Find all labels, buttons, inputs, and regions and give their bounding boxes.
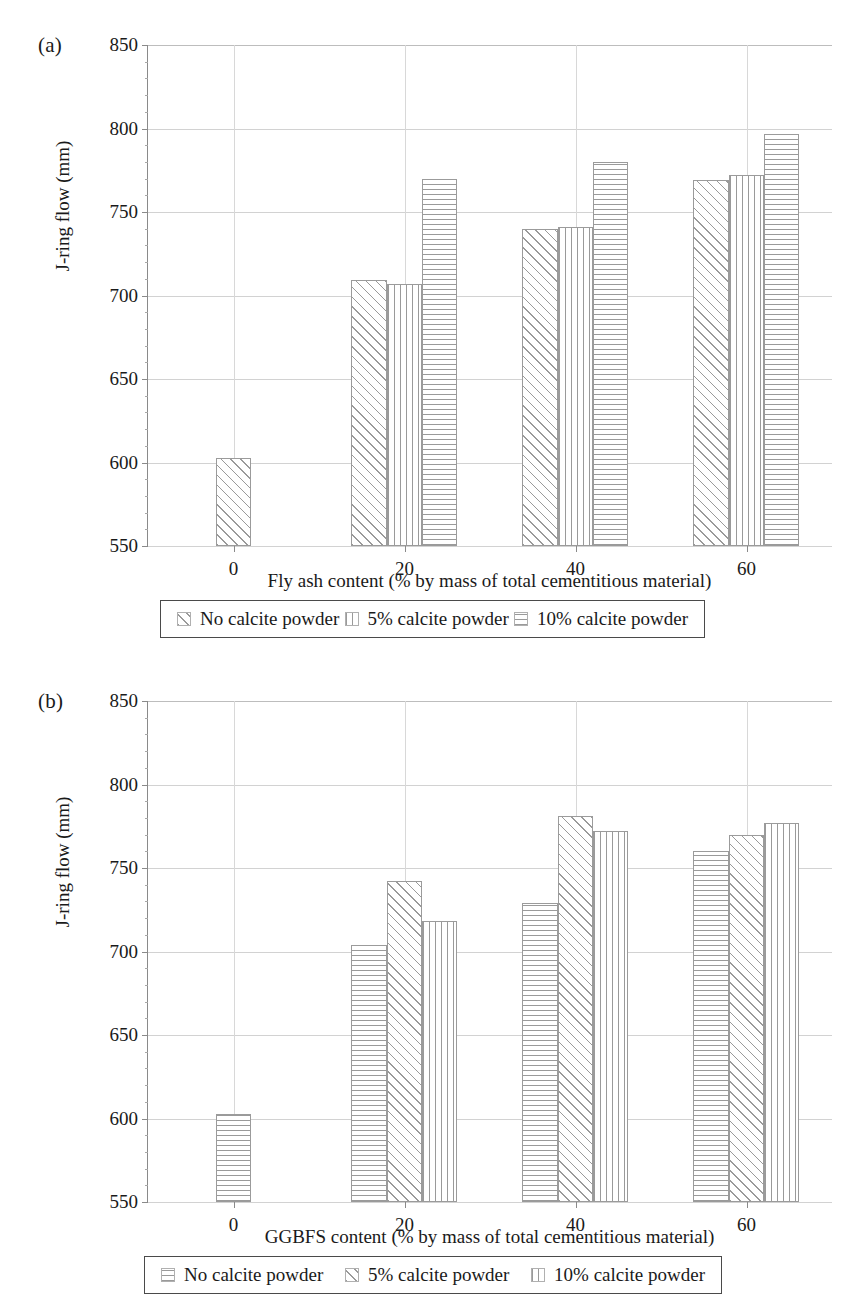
y-tick-label: 600 <box>110 452 139 474</box>
y-minor-tick <box>145 162 148 163</box>
chart-panel-a: (a) J-ring flow (mm) 5506006507007508008… <box>0 0 865 650</box>
bar-b-20-s2 <box>422 921 457 1202</box>
y-tick-label: 650 <box>110 368 139 390</box>
y-tick-mark <box>142 296 148 297</box>
y-minor-tick <box>145 78 148 79</box>
legend-item-a-1[interactable]: 5% calcite powder <box>345 608 509 630</box>
y-minor-tick <box>145 95 148 96</box>
x-tick-mark <box>405 1202 406 1208</box>
y-gridline <box>148 546 832 547</box>
legend-label: No calcite powder <box>200 608 339 630</box>
y-tick-mark <box>142 379 148 380</box>
y-gridline <box>148 701 832 702</box>
y-tick-mark <box>142 952 148 953</box>
y-minor-tick <box>145 396 148 397</box>
panel-label-a: (a) <box>38 33 62 58</box>
panel-label-b: (b) <box>38 689 63 714</box>
y-minor-tick <box>145 346 148 347</box>
y-minor-tick <box>145 112 148 113</box>
x-tick-mark <box>405 546 406 552</box>
legend-label: No calcite powder <box>184 1264 323 1286</box>
y-tick-mark <box>142 1202 148 1203</box>
y-minor-tick <box>145 818 148 819</box>
legend-swatch-vertical-icon <box>345 612 359 626</box>
y-gridline <box>148 1202 832 1203</box>
plot-area-b: 5506006507007508008500204060 <box>147 701 832 1203</box>
legend-item-a-2[interactable]: 10% calcite powder <box>514 608 688 630</box>
y-minor-tick <box>145 1152 148 1153</box>
x-tick-mark <box>576 546 577 552</box>
y-tick-label: 550 <box>110 1191 139 1213</box>
y-minor-tick <box>145 985 148 986</box>
legend-swatch-horizontal-icon <box>514 612 528 626</box>
y-minor-tick <box>145 751 148 752</box>
bar-b-40-s2 <box>593 831 628 1202</box>
legend-item-a-0[interactable]: No calcite powder <box>177 608 339 630</box>
y-tick-mark <box>142 45 148 46</box>
legend-label: 5% calcite powder <box>368 1264 509 1286</box>
y-axis-title-a: J-ring flow (mm) <box>52 91 74 321</box>
y-minor-tick <box>145 1169 148 1170</box>
y-minor-tick <box>145 1068 148 1069</box>
bar-a-60-s0 <box>693 180 728 546</box>
y-minor-tick <box>145 513 148 514</box>
y-minor-tick <box>145 329 148 330</box>
legend-swatch-diagonal-icon <box>345 1268 359 1282</box>
y-minor-tick <box>145 1018 148 1019</box>
y-tick-label: 800 <box>110 118 139 140</box>
y-minor-tick <box>145 479 148 480</box>
y-minor-tick <box>145 1135 148 1136</box>
x-axis-title-a: Fly ash content (% by mass of total ceme… <box>147 570 832 592</box>
bar-a-20-s2 <box>422 179 457 546</box>
y-minor-tick <box>145 718 148 719</box>
y-minor-tick <box>145 935 148 936</box>
y-minor-tick <box>145 529 148 530</box>
legend-item-b-0[interactable]: No calcite powder <box>161 1264 323 1286</box>
y-minor-tick <box>145 918 148 919</box>
y-tick-mark <box>142 701 148 702</box>
figure-page: (a) J-ring flow (mm) 5506006507007508008… <box>0 0 865 1306</box>
legend-b: No calcite powder5% calcite powder10% ca… <box>144 1256 722 1294</box>
y-minor-tick <box>145 179 148 180</box>
bar-b-60-s0 <box>693 851 728 1202</box>
y-minor-tick <box>145 62 148 63</box>
legend-item-b-1[interactable]: 5% calcite powder <box>345 1264 509 1286</box>
legend-a: No calcite powder5% calcite powder10% ca… <box>160 600 705 638</box>
y-tick-mark <box>142 785 148 786</box>
bar-a-60-s1 <box>729 175 764 546</box>
y-minor-tick <box>145 429 148 430</box>
y-tick-label: 650 <box>110 1024 139 1046</box>
bar-a-20-s1 <box>387 284 422 546</box>
bar-b-20-s0 <box>351 945 386 1202</box>
legend-label: 10% calcite powder <box>554 1264 705 1286</box>
y-tick-label: 700 <box>110 285 139 307</box>
y-minor-tick <box>145 446 148 447</box>
y-tick-mark <box>142 129 148 130</box>
y-tick-label: 850 <box>110 34 139 56</box>
y-minor-tick <box>145 801 148 802</box>
legend-item-b-2[interactable]: 10% calcite powder <box>531 1264 705 1286</box>
y-tick-label: 800 <box>110 774 139 796</box>
bar-b-0-s0 <box>216 1114 251 1203</box>
x-axis-title-b: GGBFS content (% by mass of total cement… <box>147 1226 832 1248</box>
bar-a-0-s0 <box>216 458 251 547</box>
bar-b-60-s1 <box>729 835 764 1202</box>
legend-swatch-horizontal-icon <box>161 1268 175 1282</box>
bar-b-20-s1 <box>387 881 422 1202</box>
y-minor-tick <box>145 245 148 246</box>
bar-a-20-s0 <box>351 280 386 546</box>
y-minor-tick <box>145 835 148 836</box>
y-tick-mark <box>142 463 148 464</box>
y-minor-tick <box>145 262 148 263</box>
y-gridline <box>148 785 832 786</box>
y-tick-label: 750 <box>110 857 139 879</box>
y-minor-tick <box>145 229 148 230</box>
y-minor-tick <box>145 885 148 886</box>
bar-b-40-s0 <box>522 903 557 1202</box>
x-tick-mark <box>576 1202 577 1208</box>
plot-area-a: 5506006507007508008500204060 <box>147 45 832 547</box>
y-minor-tick <box>145 362 148 363</box>
y-minor-tick <box>145 279 148 280</box>
chart-panel-b: (b) J-ring flow (mm) 5506006507007508008… <box>0 656 865 1306</box>
y-minor-tick <box>145 496 148 497</box>
